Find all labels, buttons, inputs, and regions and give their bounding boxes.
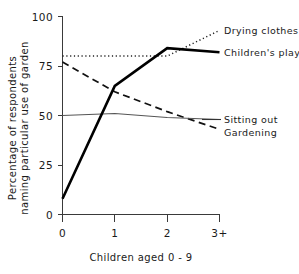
y-tick-label-100: 100 — [32, 11, 53, 23]
series-label-drying-clothes-group: Drying clothes — [224, 25, 298, 36]
y-axis-title-line1: Percentage of respondents — [7, 56, 18, 200]
y-tick-labels: 100 75 50 25 0 — [32, 11, 53, 221]
x-axis-title: Children aged 0 - 9 — [89, 252, 192, 263]
x-tick-label-3plus: 3+ — [211, 227, 227, 239]
series-label-drying-clothes: Drying clothes — [224, 25, 298, 36]
chart-container: 100 75 50 25 0 0 1 2 3+ Children aged 0 … — [0, 0, 299, 274]
series-label-gardening-group: Gardening — [224, 127, 277, 138]
x-tick-label-1: 1 — [111, 227, 118, 239]
x-tick-labels: 0 1 2 3+ — [59, 227, 228, 239]
series-label-sitting-out: Sitting out — [224, 114, 278, 125]
x-tick-label-2: 2 — [164, 227, 171, 239]
series-line-childrens-play — [63, 48, 220, 199]
y-tick-label-0: 0 — [46, 209, 53, 221]
y-axis-title-line2: naming particular use of garden — [19, 41, 30, 215]
series-line-gardening — [63, 62, 220, 129]
y-tick-label-75: 75 — [39, 60, 53, 72]
series-line-sitting-out — [63, 114, 220, 120]
series-label-sitting-out-group: Sitting out — [202, 114, 278, 125]
y-tick-label-50: 50 — [39, 110, 53, 122]
y-tick-label-25: 25 — [39, 159, 53, 171]
line-chart: 100 75 50 25 0 0 1 2 3+ Children aged 0 … — [0, 0, 299, 274]
series-label-childrens-play: Children's play — [224, 47, 299, 58]
x-tick-label-0: 0 — [59, 227, 66, 239]
series-line-drying-clothes — [63, 30, 220, 56]
series-label-childrens-play-group: Children's play — [224, 47, 299, 58]
series-label-gardening: Gardening — [224, 127, 277, 138]
